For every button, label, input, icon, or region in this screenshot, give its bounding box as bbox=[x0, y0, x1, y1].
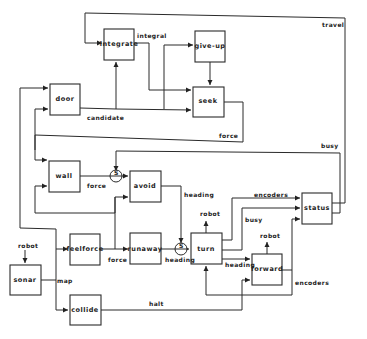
module-feelforce[interactable]: feelforce bbox=[66, 234, 103, 265]
wire-loop-avoid bbox=[35, 197, 128, 213]
svg-text:forward: forward bbox=[251, 265, 283, 273]
svg-text:turn: turn bbox=[197, 245, 215, 253]
label-halt: halt bbox=[149, 300, 164, 307]
svg-text:integrate: integrate bbox=[100, 40, 139, 48]
module-door[interactable]: door bbox=[50, 84, 80, 115]
module-collide[interactable]: collide bbox=[70, 295, 101, 325]
suppressor-node-runaway: S bbox=[175, 242, 187, 255]
module-wall[interactable]: wall bbox=[49, 161, 80, 192]
label-integral: integral bbox=[137, 32, 167, 40]
svg-text:give-up: give-up bbox=[194, 42, 225, 50]
label-map: map bbox=[57, 277, 73, 285]
label-force-feelforce: force bbox=[108, 256, 127, 263]
label-robot-sonar: robot bbox=[18, 242, 38, 249]
label-robot-turn: robot bbox=[200, 210, 220, 217]
svg-text:wall: wall bbox=[56, 172, 73, 180]
label-heading-turn: heading bbox=[225, 261, 255, 269]
wire-encoders-forward bbox=[282, 219, 300, 270]
module-give-up[interactable]: give-up bbox=[194, 31, 225, 62]
subsumption-architecture-diagram: S S integrate give-up seek door wall avo… bbox=[0, 0, 367, 339]
label-travel: travel bbox=[322, 21, 344, 28]
module-seek[interactable]: seek bbox=[193, 87, 224, 117]
label-busy-turn: busy bbox=[245, 216, 263, 224]
label-heading-runaway: heading bbox=[165, 256, 195, 264]
wire-heading-avoid bbox=[161, 186, 181, 243]
svg-text:status: status bbox=[304, 204, 330, 212]
svg-text:S: S bbox=[179, 242, 184, 249]
label-encoders-forward: encoders bbox=[295, 279, 329, 286]
module-turn[interactable]: turn bbox=[191, 233, 222, 264]
module-integrate[interactable]: integrate bbox=[100, 29, 139, 60]
module-runaway[interactable]: runaway bbox=[128, 233, 163, 264]
wire-integral bbox=[134, 43, 191, 90]
label-force-wall: force bbox=[87, 182, 106, 189]
label-busy-top: busy bbox=[321, 142, 339, 150]
module-avoid[interactable]: avoid bbox=[130, 171, 161, 202]
svg-text:runaway: runaway bbox=[128, 245, 163, 253]
wire-busy-turn bbox=[222, 208, 300, 250]
svg-text:avoid: avoid bbox=[134, 182, 156, 190]
svg-text:seek: seek bbox=[198, 97, 217, 105]
svg-text:sonar: sonar bbox=[13, 276, 36, 284]
label-robot-forward: robot bbox=[260, 232, 280, 239]
label-candidate: candidate bbox=[87, 114, 124, 121]
wire-candidate bbox=[80, 62, 116, 109]
module-sonar[interactable]: sonar bbox=[10, 265, 41, 295]
wire-candidate-giveup bbox=[164, 45, 193, 109]
wire-map-wall2 bbox=[35, 186, 47, 213]
label-encoders-status: encoders bbox=[254, 191, 288, 198]
wire-map-door2 bbox=[35, 109, 48, 150]
label-heading-avoid: heading bbox=[184, 191, 214, 199]
svg-text:S: S bbox=[114, 169, 119, 176]
label-force-seek: force bbox=[219, 132, 238, 139]
wire-candidate-seek bbox=[116, 109, 191, 110]
module-status[interactable]: status bbox=[302, 193, 332, 224]
svg-text:collide: collide bbox=[71, 306, 99, 314]
svg-text:door: door bbox=[56, 95, 75, 103]
module-forward[interactable]: forward bbox=[251, 254, 283, 285]
suppressor-node-wall: S bbox=[110, 169, 122, 182]
svg-text:feelforce: feelforce bbox=[66, 245, 103, 253]
